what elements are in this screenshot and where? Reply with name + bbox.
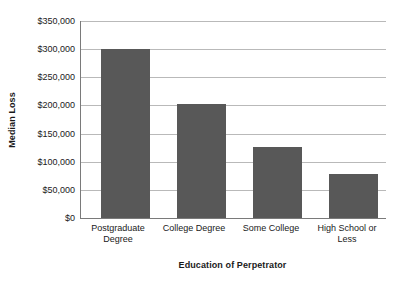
y-axis-tick-label: $300,000 [37,44,75,54]
y-axis-tick-label: $0 [65,213,75,223]
bar [329,174,378,218]
plot-area [80,21,386,219]
y-axis-tick-label: $150,000 [37,129,75,139]
y-axis-tick-label: $50,000 [42,185,75,195]
x-axis-tick-labels: Postgraduate DegreeCollege DegreeSome Co… [80,223,385,255]
x-axis-tick-label: Postgraduate Degree [80,223,156,245]
y-axis-title: Median Loss [0,0,24,240]
y-axis-tick-label: $200,000 [37,100,75,110]
y-axis-tick-label: $100,000 [37,157,75,167]
x-axis-tick-label: High School or Less [309,223,385,245]
y-axis-tick-label: $250,000 [37,72,75,82]
x-axis-tick-label: Some College [233,223,309,234]
x-axis-title: Education of Perpetrator [80,260,385,270]
bar [253,147,302,218]
bar [177,104,226,218]
bar-chart-figure: Median Loss $0$50,000$100,000$150,000$20… [0,0,398,288]
bar [101,49,150,218]
x-axis-tick-label: College Degree [156,223,232,234]
y-axis-title-label: Median Loss [7,92,17,148]
y-axis-tick-labels: $0$50,000$100,000$150,000$200,000$250,00… [24,21,78,218]
bars-series [81,21,386,218]
y-axis-tick-label: $350,000 [37,16,75,26]
